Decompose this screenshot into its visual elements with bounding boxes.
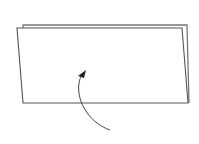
front-sheet <box>17 28 188 103</box>
folding-diagram <box>0 0 199 144</box>
